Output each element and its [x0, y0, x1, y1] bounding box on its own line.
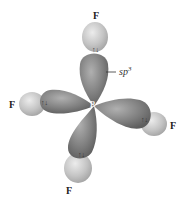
sp3-lobe-left — [40, 90, 94, 114]
electron-pair-left: ↑↓ — [41, 100, 48, 107]
sp3-lobe-top — [80, 54, 109, 107]
fluorine-label-right: F — [170, 121, 176, 131]
electron-pair-top: ↑↓ — [92, 47, 99, 54]
sp3-lobe-right — [94, 98, 151, 128]
electron-pair-bottom: ↑↓ — [78, 152, 85, 159]
sp3-label-base: sp — [119, 66, 128, 77]
sp3-label-superscript: 3 — [128, 65, 132, 73]
fluorine-label-left: F — [9, 100, 15, 110]
sp3-label: sp3 — [119, 66, 131, 77]
electron-pair-right: ↑↓ — [141, 117, 148, 124]
fluorine-label-top: F — [93, 11, 99, 21]
boron-label: B — [90, 101, 95, 109]
fluorine-label-bottom: F — [66, 186, 72, 196]
